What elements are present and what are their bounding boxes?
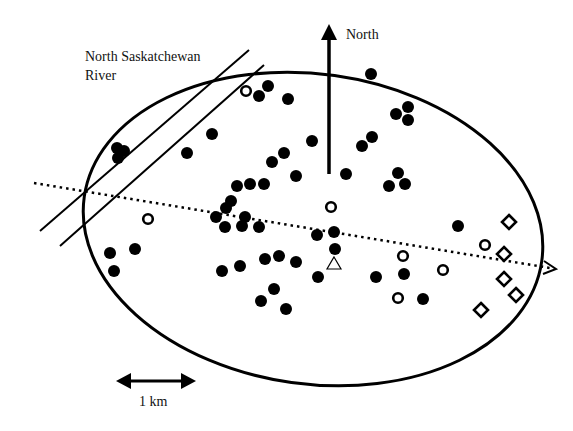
filled-circle-marker bbox=[244, 178, 256, 190]
filled-circle-marker bbox=[312, 271, 324, 283]
filled-circle-marker bbox=[329, 243, 341, 255]
filled-circle-marker bbox=[365, 68, 377, 80]
scale-left-arrowhead-icon bbox=[116, 373, 131, 389]
filled-circle-marker bbox=[340, 168, 352, 180]
filled-circle-marker bbox=[108, 265, 120, 277]
filled-circle-marker bbox=[328, 226, 340, 238]
open-circle-markers bbox=[143, 86, 490, 303]
filled-circle-marker bbox=[282, 93, 294, 105]
boundary-ellipse bbox=[63, 43, 564, 414]
open-diamond-marker bbox=[502, 215, 516, 229]
open-diamond-marker bbox=[509, 288, 523, 302]
filled-circle-marker bbox=[417, 293, 429, 305]
filled-circle-marker bbox=[392, 167, 404, 179]
filled-circle-marker bbox=[253, 221, 265, 233]
filled-circle-marker bbox=[181, 147, 193, 159]
filled-circle-marker bbox=[383, 180, 395, 192]
filled-circle-marker bbox=[356, 140, 368, 152]
filled-circle-marker bbox=[220, 202, 232, 214]
filled-circle-marker bbox=[290, 256, 302, 268]
filled-circle-marker bbox=[452, 220, 464, 232]
filled-circle-marker bbox=[112, 152, 124, 164]
filled-circle-marker bbox=[273, 250, 285, 262]
filled-circle-marker bbox=[219, 221, 231, 233]
open-diamond-marker bbox=[474, 303, 488, 317]
filled-circle-marker bbox=[399, 178, 411, 190]
filled-circle-marker bbox=[259, 253, 271, 265]
filled-circle-marker bbox=[255, 295, 267, 307]
river-label-line2: River bbox=[85, 67, 116, 84]
open-circle-marker bbox=[326, 202, 336, 212]
open-circle-marker bbox=[241, 86, 251, 96]
scale-label: 1 km bbox=[139, 393, 167, 410]
filled-circle-marker bbox=[280, 303, 292, 315]
open-diamond-marker bbox=[497, 247, 511, 261]
filled-circle-marker bbox=[258, 178, 270, 190]
open-circle-marker bbox=[438, 265, 448, 275]
scale-bar-icon bbox=[116, 373, 196, 389]
open-circle-marker bbox=[143, 214, 153, 224]
open-triangle-marker bbox=[327, 257, 341, 269]
triangle-markers bbox=[327, 257, 341, 269]
filled-circle-marker bbox=[234, 260, 246, 272]
filled-circle-marker bbox=[231, 180, 243, 192]
filled-circle-marker bbox=[262, 80, 274, 92]
filled-circle-marker bbox=[398, 268, 410, 280]
filled-circle-marker bbox=[104, 247, 116, 259]
filled-circle-marker bbox=[268, 283, 280, 295]
filled-circle-marker bbox=[210, 211, 222, 223]
open-diamond-marker bbox=[497, 272, 511, 286]
filled-circle-marker bbox=[290, 170, 302, 182]
study-area-boundary bbox=[63, 43, 564, 414]
river-bank-line bbox=[60, 65, 264, 246]
filled-circle-marker bbox=[129, 243, 141, 255]
filled-circle-marker bbox=[206, 128, 218, 140]
filled-circle-marker bbox=[366, 131, 378, 143]
filled-circle-marker bbox=[402, 114, 414, 126]
filled-circle-marker bbox=[390, 108, 402, 120]
filled-circle-marker bbox=[266, 156, 278, 168]
open-circle-marker bbox=[398, 251, 408, 261]
river-label-line1: North Saskatchewan bbox=[85, 48, 200, 65]
open-circle-marker bbox=[480, 240, 490, 250]
north-arrowhead-icon bbox=[321, 24, 337, 40]
filled-circle-marker bbox=[306, 135, 318, 147]
open-circle-marker bbox=[393, 293, 403, 303]
filled-circle-marker bbox=[402, 101, 414, 113]
river-bank-line bbox=[40, 50, 249, 231]
filled-circle-marker bbox=[311, 229, 323, 241]
filled-circle-marker bbox=[236, 220, 248, 232]
filled-circle-marker bbox=[370, 271, 382, 283]
diamond-markers bbox=[474, 215, 523, 317]
filled-circle-marker bbox=[216, 265, 228, 277]
scale-right-arrowhead-icon bbox=[181, 373, 196, 389]
filled-circle-markers bbox=[104, 68, 464, 315]
filled-circle-marker bbox=[278, 147, 290, 159]
north-arrow-icon bbox=[321, 24, 337, 174]
filled-circle-marker bbox=[253, 90, 265, 102]
north-label: North bbox=[346, 26, 379, 43]
